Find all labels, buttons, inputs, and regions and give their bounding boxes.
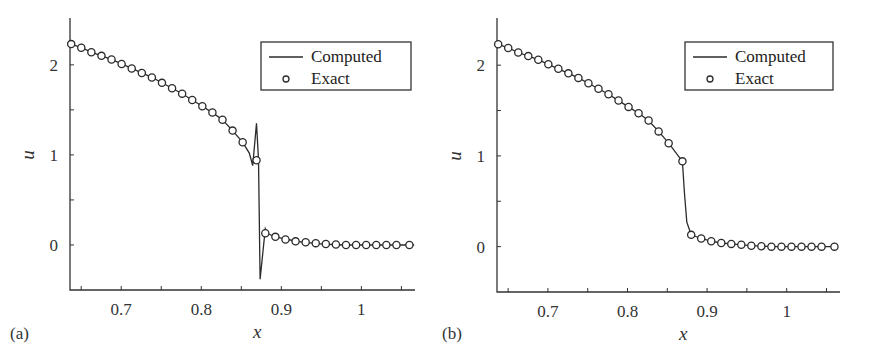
exact-marker: [758, 243, 765, 250]
panel-label-b: (b): [442, 324, 462, 343]
y-tick-label: 1: [477, 147, 486, 166]
exact-marker: [342, 241, 349, 248]
exact-marker: [535, 56, 542, 63]
exact-marker: [798, 243, 805, 250]
exact-marker: [565, 70, 572, 77]
x-tick-label: 0.9: [696, 302, 717, 321]
exact-marker: [68, 41, 75, 48]
exact-marker: [88, 49, 95, 56]
exact-marker: [168, 85, 175, 92]
exact-marker: [515, 49, 522, 56]
legend-marker-icon: [283, 76, 289, 82]
exact-marker: [138, 69, 145, 76]
legend-label-computed: Computed: [735, 47, 806, 66]
exact-marker: [525, 53, 532, 60]
exact-marker: [808, 243, 815, 250]
exact-marker: [108, 56, 115, 63]
exact-marker: [698, 235, 705, 242]
y-tick-label: 0: [50, 236, 59, 255]
exact-marker: [189, 96, 196, 103]
exact-marker: [219, 116, 226, 123]
exact-marker: [605, 91, 612, 98]
exact-marker: [199, 103, 206, 110]
x-tick-label: 0.9: [271, 300, 292, 319]
exact-marker: [788, 243, 795, 250]
exact-marker: [262, 230, 269, 237]
exact-marker: [505, 44, 512, 51]
exact-marker: [645, 117, 652, 124]
exact-marker: [748, 242, 755, 249]
exact-marker: [352, 241, 359, 248]
y-tick-label: 1: [50, 146, 59, 165]
x-axis-title: x: [678, 323, 688, 344]
exact-marker: [406, 241, 413, 248]
exact-marker: [585, 80, 592, 87]
exact-marker: [209, 109, 216, 116]
exact-marker: [495, 41, 502, 48]
legend-marker-icon: [707, 76, 713, 82]
chart-b-svg: 0.70.80.91012xuComputedExact (b): [430, 0, 867, 359]
y-tick-label: 2: [477, 56, 486, 75]
exact-marker: [272, 233, 279, 240]
chart-panel-a: 0.70.80.91012xuComputedExact (a): [0, 0, 437, 359]
legend: ComputedExact: [685, 42, 833, 90]
chart-a-svg: 0.70.80.91012xuComputedExact (a): [0, 0, 437, 359]
x-tick-label: 1: [357, 300, 366, 319]
exact-marker: [373, 241, 380, 248]
x-tick-label: 0.8: [617, 302, 638, 321]
y-tick-label: 0: [477, 238, 486, 257]
exact-marker: [615, 97, 622, 104]
exact-marker: [655, 128, 662, 135]
exact-marker: [393, 241, 400, 248]
exact-marker: [239, 139, 246, 146]
x-tick-label: 0.8: [191, 300, 212, 319]
legend-label-exact: Exact: [735, 69, 774, 88]
y-tick-label: 2: [50, 56, 59, 75]
exact-marker: [545, 61, 552, 68]
exact-marker: [728, 240, 735, 247]
exact-marker: [158, 79, 165, 86]
exact-marker: [302, 239, 309, 246]
exact-marker: [575, 74, 582, 81]
x-tick-label: 0.7: [537, 302, 559, 321]
exact-marker: [665, 140, 672, 147]
exact-marker: [128, 65, 135, 72]
exact-marker: [148, 74, 155, 81]
exact-marker: [292, 238, 299, 245]
exact-marker: [679, 158, 686, 165]
exact-marker: [768, 243, 775, 250]
exact-marker: [312, 240, 319, 247]
exact-marker: [831, 243, 838, 250]
exact-marker: [118, 60, 125, 67]
exact-marker: [179, 90, 186, 97]
exact-marker: [282, 236, 289, 243]
exact-marker: [635, 110, 642, 117]
exact-marker: [718, 239, 725, 246]
x-axis-title: x: [252, 321, 262, 342]
chart-panel-b: 0.70.80.91012xuComputedExact (b): [430, 0, 867, 359]
exact-marker: [778, 243, 785, 250]
legend: ComputedExact: [261, 42, 411, 90]
x-tick-label: 1: [782, 302, 791, 321]
exact-marker: [253, 157, 260, 164]
y-axis-title: u: [17, 150, 38, 160]
panel-label-a: (a): [10, 324, 29, 343]
exact-marker: [332, 241, 339, 248]
exact-marker: [363, 241, 370, 248]
exact-marker: [229, 127, 236, 134]
exact-marker: [625, 103, 632, 110]
y-axis-title: u: [444, 151, 465, 161]
exact-marker: [322, 240, 329, 247]
exact-marker: [738, 241, 745, 248]
exact-marker: [98, 52, 105, 59]
exact-marker: [595, 85, 602, 92]
exact-marker: [383, 241, 390, 248]
exact-marker: [555, 65, 562, 72]
exact-marker: [818, 243, 825, 250]
exact-marker: [78, 44, 85, 51]
exact-marker: [708, 238, 715, 245]
exact-marker: [688, 231, 695, 238]
plot-b: 0.70.80.91012xuComputedExact: [444, 18, 840, 344]
legend-label-exact: Exact: [311, 69, 350, 88]
legend-label-computed: Computed: [311, 47, 382, 66]
